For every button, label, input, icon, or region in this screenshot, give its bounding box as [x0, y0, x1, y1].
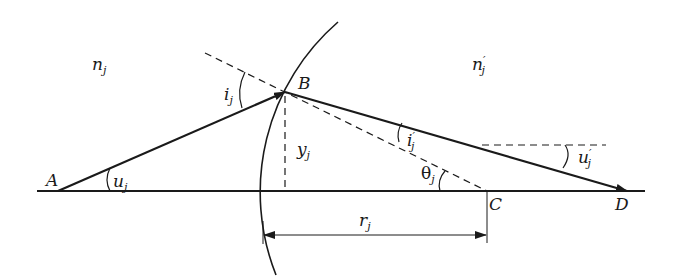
- label-i: ij: [224, 84, 233, 107]
- label-C: C: [489, 194, 502, 214]
- label-theta: θj: [421, 163, 435, 186]
- label-y: yj: [296, 139, 311, 162]
- label-B: B: [297, 73, 311, 93]
- angle-arc-u: [107, 168, 110, 191]
- angle-arc-theta: [439, 171, 445, 191]
- label-u-prime: u′j: [578, 147, 592, 170]
- angle-arc-i: [240, 72, 245, 108]
- label-i-prime: i′j: [407, 130, 415, 153]
- refraction-diagram: nj n′j A B C D ij uj i′j θj u′j yj rj: [0, 0, 678, 279]
- label-n: nj: [92, 54, 107, 77]
- surface-normal: [205, 53, 487, 191]
- label-r: rj: [359, 210, 371, 233]
- label-A: A: [44, 170, 58, 190]
- label-u: uj: [113, 171, 128, 194]
- angle-arc-u-prime: [563, 145, 568, 168]
- incident-ray: [58, 92, 285, 191]
- label-n-prime: n′j: [472, 54, 486, 77]
- label-D: D: [614, 194, 629, 214]
